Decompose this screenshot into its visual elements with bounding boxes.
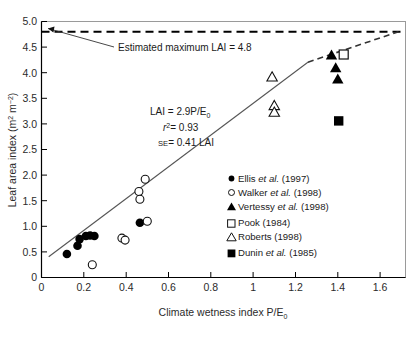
y-tick-label: 1.0 [22,220,37,232]
y-tick-label: 5.0 [22,15,37,27]
legend-label-tail: (1998) [291,187,321,198]
legend-item-roberts: Roberts (1998) [238,231,302,242]
max-lai-annotation-label: Estimated maximum LAI = 4.8 [118,42,252,53]
legend-item-vertessy: Vertessy et al. (1998) [238,201,329,212]
y-tick-label: 3.0 [22,118,37,130]
data-point [88,261,96,269]
legend-label-text: Pook (1984) [238,217,290,228]
x-tick-label: 0.4 [119,281,134,293]
data-point [121,236,129,244]
legend-marker-filled-square [228,250,236,258]
y-axis-title-main: Leaf area index (m [6,120,18,208]
x-tick-label: 0 [39,281,45,293]
x-tick-label: 1.6 [373,281,388,293]
y-tick-label: 3.5 [22,92,37,104]
x-tick-label: 0.2 [76,281,91,293]
series-dunin-markers [334,116,343,125]
legend-label-text: Dunin [238,247,266,258]
y-tick-label: 4.5 [22,41,37,53]
se-stat: SE= 0.41 LAI [158,137,214,148]
y-tick-label: 2.0 [22,169,37,181]
y-axis-title: Leaf area index (m2 m−2) [6,93,18,208]
legend-label-text: Roberts (1998) [238,231,302,242]
legend-item-ellis: Ellis et al. (1997) [238,173,309,184]
x-axis-title: Climate wetness index P/E0 [159,306,288,320]
data-point [136,195,144,203]
legend-label-italic: et al. [277,201,298,212]
legend-label-italic: et al. [266,247,287,258]
x-tick-label: 1.4 [330,281,345,293]
legend-label-tail: (1985) [287,247,317,258]
figure-container: 0 0.5 1.0 1.5 2.0 2.5 3.0 3.5 4.0 4.5 5.… [0,0,419,340]
lai-vs-wetness-scatter-chart: 0 0.5 1.0 1.5 2.0 2.5 3.0 3.5 4.0 4.5 5.… [0,0,419,340]
series-pook-markers [339,50,348,59]
y-tick-label: 1.5 [22,195,37,207]
x-tick-label: 0.6 [161,281,176,293]
data-point [143,217,151,225]
legend-label-tail: (1998) [298,201,328,212]
y-tick-label: 2.5 [22,143,37,155]
data-point [135,188,143,196]
legend-marker-open-square [228,220,235,227]
data-point [334,116,343,125]
y-tick-label: 0 [31,271,37,283]
y-axis-title-sup-2: −2 [7,96,14,104]
se-label: SE [158,139,168,148]
x-axis-title-subscript: 0 [283,313,287,320]
legend-label-text: Vertessy [238,201,277,212]
x-tick-label: 1 [250,281,256,293]
x-tick-label: 0.8 [203,281,218,293]
se-value: = 0.41 LAI [168,137,214,148]
data-point [141,175,149,183]
x-axis-tick-labels: 0 0.2 0.4 0.6 0.8 1 1.2 1.4 1.6 [39,281,388,293]
legend-label-italic: et al. [258,173,279,184]
data-point [339,50,348,59]
y-axis-title-mid: m [6,104,18,116]
x-axis-title-main: Climate wetness index P/E [159,306,284,318]
data-point [90,232,99,241]
regression-equation-subscript: 0 [206,112,210,119]
data-point [136,218,145,227]
legend-label-text: Walker [238,187,270,198]
legend-marker-open-circle [229,190,235,196]
legend-label-italic: et al. [270,187,291,198]
legend-item-dunin: Dunin et al. (1985) [238,247,317,258]
legend-item-pook: Pook (1984) [238,217,290,228]
y-tick-label: 0.5 [22,246,37,258]
regression-equation-text: LAI = 2.9P/E [150,106,207,117]
y-tick-label: 4.0 [22,67,37,79]
r-squared-value: = 0.93 [170,122,199,133]
legend-marker-filled-circle [229,176,235,182]
y-axis-title-tail: ) [6,93,18,97]
legend-item-walker: Walker et al. (1998) [238,187,321,198]
legend-label-text: Ellis [238,173,258,184]
data-point [63,250,72,259]
x-tick-label: 1.2 [288,281,303,293]
legend-label-tail: (1997) [279,173,309,184]
